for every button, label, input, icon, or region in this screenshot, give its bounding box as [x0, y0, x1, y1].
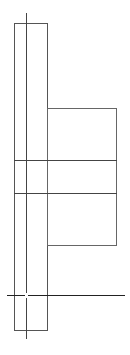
- tall-rectangle: [15, 24, 48, 331]
- line-diagram: [0, 0, 130, 355]
- diagram-canvas: [0, 0, 130, 355]
- side-box: [48, 109, 117, 246]
- intersection-gap: [25, 294, 28, 297]
